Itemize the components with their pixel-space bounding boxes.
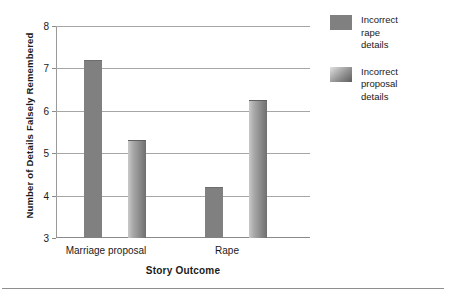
legend-label-line3: details: [361, 91, 388, 102]
plot-area: 345678: [56, 26, 310, 238]
y-tick-label: 5: [43, 148, 49, 159]
y-tick-mark: [52, 26, 56, 27]
legend-swatch-icon: [330, 67, 352, 82]
y-tick-mark: [52, 196, 56, 197]
legend-label-line3: details: [361, 39, 388, 50]
legend-label: Incorrect proposal details: [361, 66, 398, 104]
y-tick-mark: [52, 68, 56, 69]
y-tick-mark: [52, 111, 56, 112]
legend-item-incorrect-rape-details: Incorrect rape details: [330, 14, 445, 52]
y-tick-label: 8: [43, 21, 49, 32]
legend-swatch-icon: [330, 15, 352, 30]
y-tick-label: 4: [43, 190, 49, 201]
legend-label-line1: Incorrect: [361, 14, 398, 25]
y-tick-mark: [52, 153, 56, 154]
x-axis-title: Story Outcome: [56, 265, 310, 276]
y-tick-label: 3: [43, 233, 49, 244]
page-rule-divider: [2, 288, 444, 289]
y-tick-label: 7: [43, 63, 49, 74]
x-category-label: Marriage proposal: [66, 245, 147, 256]
gridline: [56, 26, 310, 27]
bar-chart-figure: Number of Details Falsely Remembered 345…: [0, 0, 449, 300]
x-category-label: Rape: [215, 245, 239, 256]
legend-label-line2: rape: [361, 27, 380, 38]
legend-label-line1: Incorrect: [361, 66, 398, 77]
chart-legend: Incorrect rape details Incorrect proposa…: [330, 14, 445, 117]
legend-label-line2: proposal: [361, 78, 397, 89]
bar-0-1: [205, 187, 223, 238]
y-tick-mark: [52, 238, 56, 239]
legend-label: Incorrect rape details: [361, 14, 398, 52]
legend-item-incorrect-proposal-details: Incorrect proposal details: [330, 66, 445, 104]
bar-1-1: [249, 100, 267, 238]
y-tick-label: 6: [43, 105, 49, 116]
bar-1-0: [128, 140, 146, 238]
y-axis-title: Number of Details Falsely Remembered: [24, 21, 35, 231]
bar-0-0: [84, 60, 102, 238]
